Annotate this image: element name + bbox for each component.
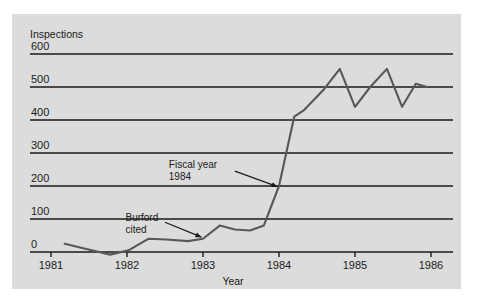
chart-annotations: Fiscal year1984Burfordcited [125,159,277,238]
x-tick-label-1981: 1981 [39,259,63,271]
y-axis-title: Inspections [30,28,83,40]
y-tick-label-200: 200 [31,172,49,184]
line-chart: Inspections 0100200300400500600 19811982… [0,0,478,306]
chart-figure: Inspections 0100200300400500600 19811982… [0,0,478,306]
x-tick-label-1984: 1984 [267,259,291,271]
y-tick-label-600: 600 [31,40,49,52]
x-tick-label-1983: 1983 [191,259,215,271]
x-axis-tick-labels: 198119821983198419851986 [39,259,443,271]
y-tick-label-0: 0 [31,238,37,250]
y-tick-label-500: 500 [31,73,49,85]
gridlines [30,54,453,219]
x-axis-title: Year [222,275,244,287]
x-tick-label-1982: 1982 [115,259,139,271]
y-tick-label-400: 400 [31,106,49,118]
annotation-arrowhead-fiscal-year-1984 [271,182,277,187]
y-tick-label-300: 300 [31,139,49,151]
y-tick-label-100: 100 [31,205,49,217]
x-tick-label-1985: 1985 [343,259,367,271]
annotation-arrow-fiscal-year-1984 [235,171,278,187]
annotation-label-fiscal-year-1984: Fiscal year1984 [169,159,218,182]
annotation-label-burford-cited: Burfordcited [125,212,158,235]
x-tick-label-1986: 1986 [419,259,443,271]
data-series-line [65,69,428,255]
